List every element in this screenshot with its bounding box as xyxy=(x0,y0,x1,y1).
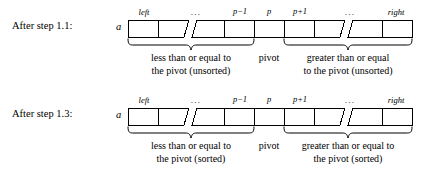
brace-left xyxy=(128,127,254,138)
index-label-p-plus-1: p+1 xyxy=(293,94,307,104)
index-label-p: p xyxy=(267,94,271,104)
diagram-after-step-1-3: After step 1.3: a left ... p−1 p p+1 ...… xyxy=(0,88,437,176)
caption-right-line2: to the pivot (unsorted) xyxy=(303,65,392,78)
caption-right-line1: greater than or equal xyxy=(303,52,392,65)
index-label-left: left xyxy=(139,7,150,17)
caption-left-region: less than or equal to the pivot (sorted) xyxy=(151,140,231,165)
array-cell-pivot xyxy=(254,108,284,125)
caption-left-region: less than or equal to the pivot (unsorte… xyxy=(151,52,231,77)
array-segment-right-b xyxy=(348,20,412,37)
caption-pivot: pivot xyxy=(259,140,280,153)
index-label-ellipsis-left: ... xyxy=(191,7,201,17)
index-label-ellipsis-right: ... xyxy=(345,7,355,17)
index-label-p: p xyxy=(267,6,271,16)
index-label-ellipsis-right: ... xyxy=(345,95,355,105)
index-label-left: left xyxy=(139,95,150,105)
caption-pivot: pivot xyxy=(259,52,280,65)
index-label-ellipsis-left: ... xyxy=(191,95,201,105)
index-label-right: right xyxy=(388,95,405,105)
array-segment-left-b xyxy=(192,20,254,37)
caption-left-line2: the pivot (sorted) xyxy=(151,153,231,166)
brace-right xyxy=(284,127,412,138)
brace-left xyxy=(128,39,254,50)
caption-left-line1: less than or equal to xyxy=(151,140,231,153)
caption-right-region: greater than or equal to the pivot (unso… xyxy=(303,52,392,77)
diagram-after-step-1-1: After step 1.1: a left ... xyxy=(0,0,437,88)
array-segment-right-b xyxy=(348,108,412,125)
caption-left-line2: the pivot (unsorted) xyxy=(151,65,231,78)
index-label-p-minus-1: p−1 xyxy=(233,6,247,16)
array-segment-left-b xyxy=(192,108,254,125)
index-label-p-minus-1: p−1 xyxy=(233,94,247,104)
index-label-right: right xyxy=(388,7,405,17)
brace-right xyxy=(284,39,412,50)
index-label-p-plus-1: p+1 xyxy=(293,6,307,16)
caption-right-line1: greater than or equal to xyxy=(302,140,395,153)
caption-right-region: greater than or equal to the pivot (sort… xyxy=(302,140,395,165)
caption-right-line2: the pivot (sorted) xyxy=(302,153,395,166)
caption-left-line1: less than or equal to xyxy=(151,52,231,65)
array-cell-pivot xyxy=(254,20,284,37)
